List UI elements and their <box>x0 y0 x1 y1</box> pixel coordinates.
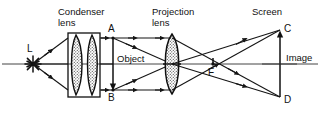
label-image: Image <box>286 52 312 63</box>
label-image-top: C <box>284 23 291 34</box>
label-object-bottom: B <box>108 92 115 103</box>
label-object-top: A <box>108 23 115 34</box>
label-image-bottom: D <box>284 94 291 105</box>
ray-arrow-source-upper <box>44 50 52 56</box>
diagram-canvas: L <box>0 0 322 113</box>
ray-group-lens-to-screen <box>172 30 280 97</box>
ray-group-condenser-to-object <box>100 38 113 90</box>
label-projection-lens-line1: Projection <box>152 6 194 17</box>
ray-group-source-to-condenser <box>33 38 68 90</box>
condenser-lens-assembly <box>68 33 100 97</box>
label-condenser-lens-line1: Condenser <box>58 6 104 17</box>
label-projection-lens-line2: lens <box>152 17 170 28</box>
condenser-lens-element-1 <box>72 35 83 95</box>
ray-arrow-source-lower <box>44 72 52 78</box>
label-light-source: L <box>27 43 33 54</box>
condenser-lens-element-2 <box>88 35 98 95</box>
optics-ray-diagram: L <box>0 0 322 113</box>
label-object: Object <box>117 53 145 64</box>
screen <box>262 33 297 97</box>
label-focal-point: F <box>208 67 214 78</box>
label-screen: Screen <box>252 6 282 17</box>
label-condenser-lens-line2: lens <box>58 17 76 28</box>
